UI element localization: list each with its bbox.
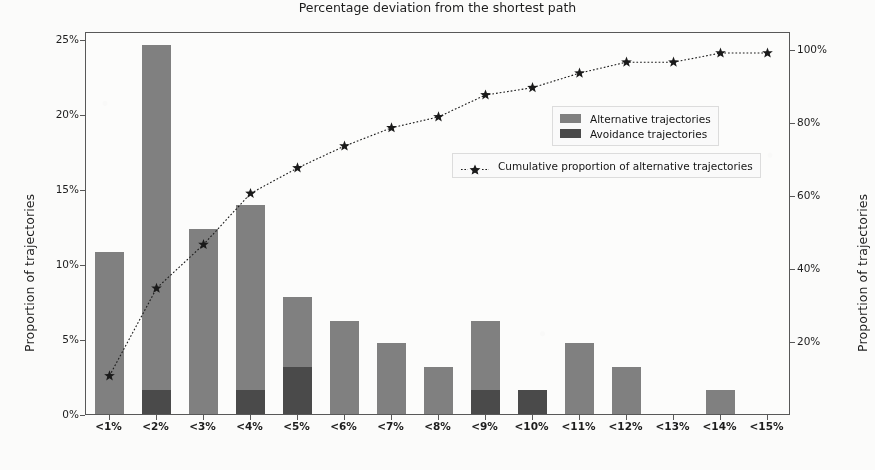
y-tick-label-left: 15% (0, 183, 79, 195)
bar-alternative (612, 367, 641, 414)
bar-avoidance (518, 390, 547, 414)
cumulative-star-marker-icon (245, 188, 256, 198)
y-tick-mark-right (790, 196, 795, 197)
bar-alternative (377, 343, 406, 414)
bar-avoidance (236, 390, 265, 414)
cumulative-star-marker-icon (715, 47, 726, 57)
y-tick-mark-right (790, 269, 795, 270)
y-tick-label-right: 80% (797, 116, 867, 128)
y-tick-label-left: 20% (0, 108, 79, 120)
bar-avoidance (283, 367, 312, 414)
x-tick-label: <15% (737, 420, 797, 432)
legend-item-alternative: Alternative trajectories (560, 111, 711, 126)
bar-alternative (142, 45, 171, 414)
bar-avoidance (142, 390, 171, 414)
legend-item-avoidance: Avoidance trajectories (560, 126, 711, 141)
cumulative-star-marker-icon (574, 68, 585, 78)
bar-alternative (565, 343, 594, 414)
cumulative-star-marker-icon (480, 89, 491, 99)
cumulative-star-marker-icon (621, 57, 632, 67)
bar-alternative (95, 252, 124, 414)
bar-alternative (236, 205, 265, 414)
legend-label-cumulative: Cumulative proportion of alternative tra… (498, 160, 753, 172)
legend-label-alternative: Alternative trajectories (590, 113, 711, 125)
y-tick-label-left: 0% (0, 408, 79, 420)
cumulative-star-marker-icon (668, 57, 679, 67)
plot-area (85, 32, 790, 415)
y-tick-label-right: 20% (797, 335, 867, 347)
legend-star-line-icon (460, 160, 490, 171)
bar-alternative (706, 390, 735, 414)
bar-alternative (330, 321, 359, 414)
legend-bars: Alternative trajectories Avoidance traje… (552, 106, 719, 146)
legend-item-cumulative: Cumulative proportion of alternative tra… (460, 158, 753, 173)
y-tick-mark-right (790, 50, 795, 51)
y-tick-label-right: 100% (797, 43, 867, 55)
cumulative-star-marker-icon (292, 162, 303, 172)
legend-label-avoidance: Avoidance trajectories (590, 128, 707, 140)
y-tick-mark-right (790, 123, 795, 124)
y-tick-label-right: 60% (797, 189, 867, 201)
y-tick-label-left: 10% (0, 258, 79, 270)
y-tick-mark-left (80, 415, 85, 416)
y-tick-label-left: 25% (0, 33, 79, 45)
cumulative-star-marker-icon (527, 82, 538, 92)
bar-alternative (189, 229, 218, 414)
cumulative-star-marker-icon (433, 111, 444, 121)
legend-cumulative: Cumulative proportion of alternative tra… (452, 153, 761, 178)
bar-avoidance (471, 390, 500, 414)
cumulative-star-marker-icon (386, 122, 397, 132)
cumulative-star-marker-icon (339, 140, 350, 150)
x-axis-title: Percentage deviation from the shortest p… (0, 0, 875, 15)
legend-swatch-avoidance-icon (560, 129, 581, 138)
y-tick-label-left: 5% (0, 333, 79, 345)
y-axis-title-left: Proportion of trajectories (22, 194, 37, 352)
y-tick-mark-right (790, 342, 795, 343)
y-tick-label-right: 40% (797, 262, 867, 274)
cumulative-star-marker-icon (762, 47, 773, 57)
legend-swatch-alternative-icon (560, 114, 581, 123)
bar-alternative (424, 367, 453, 414)
chart-figure: Proportion of trajectories Proportion of… (0, 0, 875, 470)
